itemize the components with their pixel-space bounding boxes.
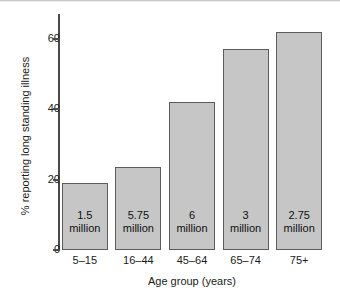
- bar-value-unit: million: [277, 222, 321, 235]
- bar-value-unit: million: [170, 222, 214, 235]
- bar: 5.75million: [115, 167, 161, 250]
- bar-value-number: 6: [170, 209, 214, 222]
- bar-value-unit: million: [116, 222, 160, 235]
- bar-value-label: 5.75million: [116, 209, 160, 235]
- bar-chart-figure: 0204060 % reporting long standing illnes…: [0, 0, 340, 298]
- bar-value-number: 3: [224, 209, 268, 222]
- bar-value-label: 1.5million: [63, 209, 107, 235]
- bar: 2.75million: [276, 32, 322, 250]
- bar-value-number: 1.5: [63, 209, 107, 222]
- bar-value-label: 3million: [224, 209, 268, 235]
- y-axis-title: % reporting long standing illness: [19, 36, 31, 236]
- bar: 6million: [169, 102, 215, 250]
- bar-value-label: 6million: [170, 209, 214, 235]
- figure-top-edge: [0, 0, 340, 2]
- bar-value-number: 2.75: [277, 209, 321, 222]
- bar: 3million: [223, 49, 269, 250]
- bar-value-number: 5.75: [116, 209, 160, 222]
- bar-value-label: 2.75million: [277, 209, 321, 235]
- bar: 1.5million: [62, 183, 108, 250]
- plot-area: 1.5million5.75million6million3million2.7…: [58, 14, 326, 250]
- x-axis-title: Age group (years): [58, 275, 326, 287]
- bar-value-unit: million: [63, 222, 107, 235]
- x-axis-tick-label: 75+: [259, 254, 339, 266]
- bar-value-unit: million: [224, 222, 268, 235]
